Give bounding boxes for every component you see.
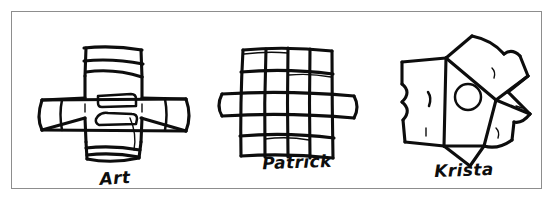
drawing-art: Art: [26, 24, 204, 192]
drawing-patrick: Patrick: [208, 24, 386, 192]
krista-detail-ticks: [426, 68, 522, 138]
patrick-grid-verticals: [241, 48, 333, 158]
krista-centre-circle: [455, 84, 481, 110]
art-band-lines: [42, 60, 186, 157]
plate-frame: Art: [11, 11, 542, 189]
drawing-krista: Krista: [380, 24, 548, 192]
figure-plate: Art: [0, 0, 558, 205]
